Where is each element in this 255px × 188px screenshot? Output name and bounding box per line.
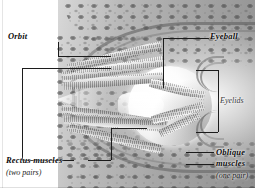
leader-rectus-top-arm bbox=[22, 68, 111, 69]
leader-rectus-inner-riser bbox=[111, 128, 112, 160]
leader-eyelids-bottom-arm bbox=[196, 132, 218, 133]
leader-orbit-horizontal bbox=[58, 56, 111, 57]
leader-eyeball-vertical bbox=[163, 38, 164, 88]
leader-eyeball-elbow bbox=[163, 38, 187, 39]
leader-orbit-vertical bbox=[58, 42, 59, 56]
page-edge-bottom bbox=[0, 187, 255, 188]
label-oblique-muscles-qualifier: (one pair) bbox=[216, 171, 248, 180]
label-orbit: Orbit bbox=[8, 31, 27, 41]
leader-eyelids-bracket-spine bbox=[218, 70, 219, 132]
figure-canvas: Orbit Eyeball Eyelids Rectus muscles (tw… bbox=[0, 0, 255, 188]
page-edge-left bbox=[2, 0, 3, 188]
leader-oblique-upper-arm bbox=[186, 152, 214, 153]
leader-rectus-inner-arm bbox=[111, 128, 147, 129]
leader-rectus-label-arm bbox=[88, 160, 111, 161]
label-eyelids: Eyelids bbox=[220, 96, 244, 105]
leader-rectus-bracket-spine bbox=[22, 68, 23, 160]
label-oblique-muscles-line2: muscles bbox=[216, 158, 245, 168]
label-rectus-muscles-qualifier: (two pairs) bbox=[6, 168, 41, 177]
label-rectus-muscles: Rectus muscles bbox=[6, 155, 62, 165]
label-eyeball: Eyeball bbox=[210, 31, 238, 41]
leader-eyelids-top-arm bbox=[196, 70, 218, 71]
label-oblique-muscles-line1: Oblique bbox=[216, 147, 245, 157]
leader-eyeball-horizontal bbox=[187, 38, 209, 39]
leader-oblique-lower-arm bbox=[186, 164, 214, 165]
